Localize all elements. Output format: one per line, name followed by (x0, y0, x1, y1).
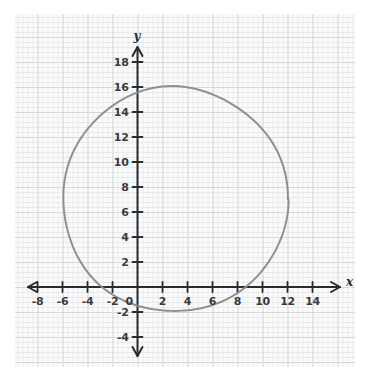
y-tick-label-14: 14 (114, 107, 129, 118)
origin-label: 0 (126, 296, 133, 307)
y-tick-label-2: 2 (121, 257, 128, 268)
x-tick-label-14: 14 (305, 296, 320, 307)
circle-curve-group (63, 86, 288, 311)
circle-curve (63, 86, 288, 311)
y-tick-label-4: 4 (121, 232, 128, 243)
y-tick-label--2: -2 (117, 307, 129, 318)
x-tick-label-8: 8 (234, 296, 241, 307)
x-tick-label--8: -8 (32, 296, 44, 307)
y-tick-label-8: 8 (121, 182, 128, 193)
x-tick-label-2: 2 (159, 296, 166, 307)
x-tick-label-4: 4 (184, 296, 191, 307)
y-tick-label-12: 12 (114, 132, 129, 143)
x-tick-label-10: 10 (255, 296, 270, 307)
y-tick-label-16: 16 (114, 82, 129, 93)
graph-figure: -8-6-4-22468101214-4-2246810121416180 x … (0, 0, 370, 380)
x-tick-label-12: 12 (280, 296, 295, 307)
y-tick-label-10: 10 (114, 157, 129, 168)
y-axis-label: y (134, 29, 141, 43)
y-tick-label-6: 6 (121, 207, 128, 218)
x-tick-label--6: -6 (57, 296, 69, 307)
x-tick-label--4: -4 (82, 296, 94, 307)
plot-canvas (0, 0, 370, 380)
tick-marks-group (38, 62, 313, 337)
x-tick-label-6: 6 (209, 296, 216, 307)
y-tick-label--4: -4 (117, 332, 129, 343)
x-axis-label: x (346, 275, 353, 289)
y-tick-label-18: 18 (114, 57, 129, 68)
